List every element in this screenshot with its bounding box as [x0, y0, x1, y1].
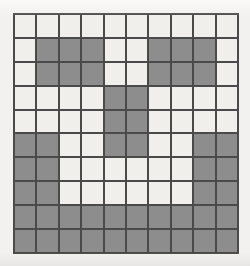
grid-cell — [194, 134, 214, 156]
grid-cell — [60, 230, 80, 252]
grid-cell — [172, 230, 192, 252]
grid-cell — [15, 230, 35, 252]
grid-cell — [105, 111, 125, 133]
grid-cell — [15, 206, 35, 228]
grid-cell — [217, 87, 237, 109]
grid-cell — [172, 111, 192, 133]
binary-grid-pattern — [13, 13, 239, 254]
grid-cell — [37, 134, 57, 156]
grid-cell — [105, 158, 125, 180]
grid-cell — [37, 87, 57, 109]
grid-cell — [217, 182, 237, 204]
grid-cell — [15, 182, 35, 204]
grid-cell — [37, 230, 57, 252]
grid-cell — [127, 111, 147, 133]
grid-cell — [82, 134, 102, 156]
grid-cell — [127, 182, 147, 204]
grid-cell — [105, 87, 125, 109]
grid-cell — [15, 87, 35, 109]
grid-cell — [217, 111, 237, 133]
grid-cell — [217, 206, 237, 228]
grid-cell — [217, 63, 237, 85]
grid-cell — [127, 206, 147, 228]
grid-cell — [105, 134, 125, 156]
grid-cell — [172, 158, 192, 180]
grid-cell — [217, 230, 237, 252]
grid-cell — [37, 206, 57, 228]
grid-cell — [15, 111, 35, 133]
grid-cell — [149, 134, 169, 156]
grid-cell — [105, 182, 125, 204]
grid-cell — [37, 39, 57, 61]
grid-cell — [217, 158, 237, 180]
grid-cell — [172, 63, 192, 85]
grid-cell — [105, 230, 125, 252]
grid-cell — [149, 182, 169, 204]
grid-cell — [15, 158, 35, 180]
grid-cell — [217, 134, 237, 156]
grid-cell — [172, 87, 192, 109]
grid-cell — [127, 158, 147, 180]
grid-cell — [82, 158, 102, 180]
grid-cell — [60, 182, 80, 204]
grid-cell — [172, 15, 192, 37]
grid-cell — [37, 182, 57, 204]
grid-cell — [37, 63, 57, 85]
grid-cell — [217, 39, 237, 61]
grid-cell — [15, 15, 35, 37]
grid-cell — [194, 182, 214, 204]
grid-cell — [15, 39, 35, 61]
grid-cell — [37, 15, 57, 37]
grid-cell — [194, 15, 214, 37]
grid-cell — [105, 15, 125, 37]
grid-cell — [149, 15, 169, 37]
grid-cell — [15, 63, 35, 85]
grid-cell — [60, 111, 80, 133]
grid-cell — [82, 15, 102, 37]
grid-cell — [60, 15, 80, 37]
grid-cell — [60, 134, 80, 156]
grid-cell — [60, 206, 80, 228]
grid-cell — [217, 15, 237, 37]
grid-cell — [194, 39, 214, 61]
grid-cell — [172, 182, 192, 204]
grid-cell — [127, 87, 147, 109]
grid-cell — [82, 206, 102, 228]
grid-cell — [172, 134, 192, 156]
grid-cell — [149, 63, 169, 85]
grid-cell — [194, 230, 214, 252]
grid-cell — [127, 134, 147, 156]
grid-cell — [15, 134, 35, 156]
grid-cell — [37, 111, 57, 133]
grid-cell — [127, 63, 147, 85]
grid-cell — [172, 206, 192, 228]
grid-cell — [149, 111, 169, 133]
grid-cell — [149, 158, 169, 180]
grid-cell — [194, 63, 214, 85]
grid-cell — [105, 63, 125, 85]
grid-cell — [60, 63, 80, 85]
grid-cell — [127, 39, 147, 61]
grid-cell — [194, 206, 214, 228]
grid-cell — [194, 87, 214, 109]
grid-cell — [37, 158, 57, 180]
grid-cell — [82, 230, 102, 252]
grid-cell — [127, 230, 147, 252]
grid-cell — [82, 87, 102, 109]
grid-cell — [82, 63, 102, 85]
grid-cell — [127, 15, 147, 37]
grid-cell — [149, 87, 169, 109]
grid-cell — [60, 158, 80, 180]
grid-cell — [194, 158, 214, 180]
grid-cell — [149, 230, 169, 252]
grid-cell — [194, 111, 214, 133]
grid-cell — [82, 182, 102, 204]
grid-cell — [82, 111, 102, 133]
grid-cell — [82, 39, 102, 61]
grid-cell — [149, 39, 169, 61]
grid-cell — [172, 39, 192, 61]
grid-cell — [60, 39, 80, 61]
grid-cell — [105, 206, 125, 228]
grid-cell — [60, 87, 80, 109]
grid-cell — [105, 39, 125, 61]
